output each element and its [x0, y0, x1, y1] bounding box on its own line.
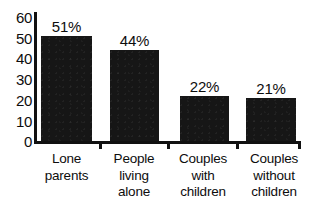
bar-lone-parents — [41, 36, 92, 141]
category-label-lone-parents: Lone parents — [30, 151, 103, 184]
y-tick-label-40: 40 — [2, 51, 32, 66]
category-label-line: parents — [30, 168, 103, 185]
category-label-line: Couples — [236, 151, 312, 168]
category-label-line: Couples — [167, 151, 239, 168]
y-tick-label-30: 30 — [2, 72, 32, 87]
y-axis-tick-labels: 60 50 40 30 20 10 0 — [0, 0, 32, 160]
bar-chart: 60 50 40 30 20 10 0 51% 44% 22% 21% Lone… — [0, 0, 314, 210]
category-label-line: People — [99, 151, 169, 168]
bar-value-people-living-alone: 44% — [110, 33, 159, 48]
category-label-line: Lone — [30, 151, 103, 168]
category-label-line: children — [236, 184, 312, 201]
category-label-line: alone — [99, 184, 169, 201]
bar-couples-without-children — [246, 98, 296, 141]
x-tick-mark-1 — [99, 144, 102, 149]
category-label-people-living-alone: People living alone — [99, 151, 169, 201]
y-tick-label-50: 50 — [2, 31, 32, 46]
category-label-line: children — [167, 184, 239, 201]
y-tick-label-60: 60 — [2, 10, 32, 25]
y-axis-line — [34, 12, 37, 143]
y-tick-label-10: 10 — [2, 114, 32, 129]
bar-value-lone-parents: 51% — [41, 19, 92, 34]
category-label-line: without — [236, 168, 312, 185]
category-label-line: living — [99, 168, 169, 185]
y-tick-label-20: 20 — [2, 93, 32, 108]
bar-couples-with-children — [180, 96, 229, 141]
x-tick-mark-2 — [167, 144, 170, 149]
category-label-couples-without-children: Couples without children — [236, 151, 312, 201]
y-tick-label-0: 0 — [2, 134, 32, 149]
bar-people-living-alone — [110, 50, 159, 141]
x-tick-mark-4 — [298, 144, 301, 149]
bar-value-couples-without-children: 21% — [246, 81, 296, 96]
bar-value-couples-with-children: 22% — [180, 79, 229, 94]
category-label-line: with — [167, 168, 239, 185]
x-tick-mark-3 — [236, 144, 239, 149]
category-label-couples-with-children: Couples with children — [167, 151, 239, 201]
